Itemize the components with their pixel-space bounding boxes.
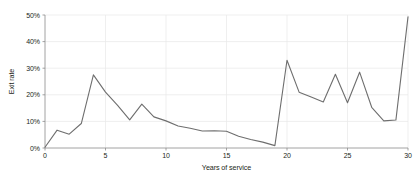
x-tick-label: 30 xyxy=(404,152,412,159)
y-tick-label: 10% xyxy=(26,118,40,125)
x-axis-title: Years of service xyxy=(202,163,251,172)
y-axis-title: Exit rate xyxy=(7,69,16,95)
gridlines-group xyxy=(45,15,408,148)
axis-tick-marks xyxy=(43,15,409,151)
y-tick-label: 0% xyxy=(30,145,40,152)
x-tick-label: 10 xyxy=(162,152,170,159)
exit-rate-line-chart: 0%10%20%30%40%50% 051015202530 Years of … xyxy=(0,0,416,181)
y-axis-tick-labels: 0%10%20%30%40%50% xyxy=(26,12,40,152)
chart-canvas: 0%10%20%30%40%50% 051015202530 Years of … xyxy=(0,0,416,181)
x-tick-label: 15 xyxy=(223,152,231,159)
y-tick-label: 30% xyxy=(26,65,40,72)
x-tick-label: 5 xyxy=(104,152,108,159)
y-tick-label: 40% xyxy=(26,38,40,45)
x-tick-label: 20 xyxy=(283,152,291,159)
y-tick-label: 50% xyxy=(26,12,40,19)
x-axis-tick-labels: 051015202530 xyxy=(43,152,412,159)
x-tick-label: 25 xyxy=(344,152,352,159)
x-tick-label: 0 xyxy=(43,152,47,159)
y-tick-label: 20% xyxy=(26,91,40,98)
